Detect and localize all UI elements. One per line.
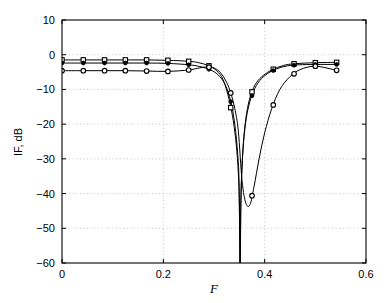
data-marker-dot bbox=[292, 63, 296, 67]
data-marker-dot bbox=[271, 69, 275, 73]
data-marker-circle bbox=[271, 103, 276, 108]
y-tick-label: −60 bbox=[36, 257, 55, 269]
data-marker-circle bbox=[228, 91, 233, 96]
y-tick-label: 0 bbox=[49, 49, 55, 61]
x-tick-label: 0 bbox=[59, 268, 65, 280]
data-marker-dot bbox=[166, 61, 170, 65]
data-marker-circle bbox=[166, 69, 171, 74]
x-tick-label: 0.6 bbox=[358, 268, 373, 280]
y-tick-label: −20 bbox=[36, 118, 55, 130]
data-marker-circle bbox=[207, 65, 212, 70]
y-axis-title: IF, dB bbox=[12, 128, 24, 156]
x-tick-label: 0.4 bbox=[257, 268, 272, 280]
data-marker-dot bbox=[250, 94, 254, 98]
y-tick-label: −40 bbox=[36, 188, 55, 200]
data-marker-dot bbox=[229, 100, 233, 104]
chart-background bbox=[0, 0, 392, 303]
data-marker-circle bbox=[81, 68, 86, 73]
data-marker-square bbox=[229, 105, 233, 109]
y-tick-label: −30 bbox=[36, 153, 55, 165]
y-tick-label: −10 bbox=[36, 83, 55, 95]
data-marker-square bbox=[250, 90, 254, 94]
data-marker-dot bbox=[123, 61, 127, 65]
data-marker-dot bbox=[335, 63, 339, 67]
data-marker-dot bbox=[81, 61, 85, 65]
data-marker-circle bbox=[313, 64, 318, 69]
data-marker-dot bbox=[103, 61, 107, 65]
data-marker-circle bbox=[102, 68, 107, 73]
y-tick-label: −50 bbox=[36, 222, 55, 234]
chart-figure: 00.20.40.6 100−10−20−30−40−50−60 F IF, d… bbox=[0, 0, 392, 303]
data-marker-circle bbox=[123, 68, 128, 73]
data-marker-dot bbox=[187, 63, 191, 67]
data-marker-circle bbox=[334, 68, 339, 73]
chart-canvas: 00.20.40.6 100−10−20−30−40−50−60 F IF, d… bbox=[0, 0, 392, 303]
y-tick-label: 10 bbox=[43, 14, 55, 26]
data-marker-circle bbox=[186, 68, 191, 73]
data-marker-circle bbox=[250, 193, 255, 198]
data-marker-circle bbox=[292, 72, 297, 77]
data-marker-circle bbox=[144, 69, 149, 74]
x-tick-label: 0.2 bbox=[156, 268, 171, 280]
data-marker-dot bbox=[145, 61, 149, 65]
x-axis-title: F bbox=[209, 281, 219, 296]
